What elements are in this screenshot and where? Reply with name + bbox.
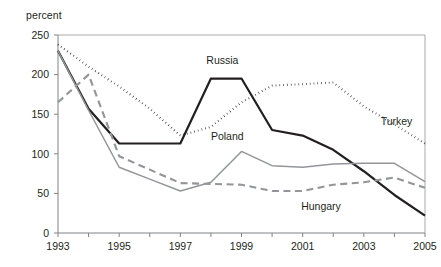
y-tick-label: 50: [37, 187, 49, 199]
y-axis-ticks: 050100150200250: [31, 29, 58, 239]
series-label-poland: Poland: [211, 130, 244, 142]
y-tick-label: 150: [31, 108, 49, 120]
x-axis-ticks: 1993199519971999200120032005: [46, 233, 437, 252]
x-tick-label: 1993: [46, 240, 70, 252]
series-label-hungary: Hungary: [301, 200, 341, 212]
line-chart: percent 050100150200250 1993199519971999…: [0, 0, 441, 267]
x-tick-label: 2005: [413, 240, 437, 252]
x-tick-label: 2003: [352, 240, 376, 252]
series-label-russia: Russia: [206, 54, 238, 66]
y-tick-label: 100: [31, 148, 49, 160]
series-line-turkey: [58, 45, 425, 144]
chart-canvas: 050100150200250 199319951997199920012003…: [0, 0, 441, 267]
x-tick-label: 1995: [107, 240, 131, 252]
x-tick-label: 1997: [169, 240, 193, 252]
x-tick-label: 1999: [230, 240, 254, 252]
y-tick-label: 200: [31, 68, 49, 80]
y-tick-label: 0: [43, 227, 49, 239]
y-tick-label: 250: [31, 29, 49, 41]
series-line-poland: [58, 51, 425, 191]
series-label-turkey: Turkey: [381, 115, 413, 127]
x-tick-label: 2001: [291, 240, 315, 252]
